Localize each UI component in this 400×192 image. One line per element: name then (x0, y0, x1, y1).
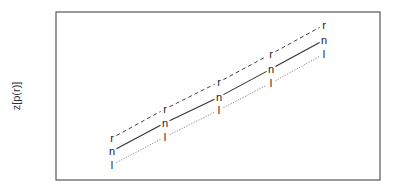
data-point-marker: n (216, 91, 222, 103)
data-point-marker: l (164, 131, 166, 143)
data-point-marker: l (111, 159, 113, 171)
series-line-segment (223, 71, 266, 94)
series-line-segment (275, 42, 319, 66)
data-point-marker: l (323, 48, 325, 60)
series-r: rrrrr (110, 19, 326, 144)
y-axis-label: z[p(r)] (10, 82, 22, 111)
series-layer: rrrrrnnnnnlllll (109, 19, 327, 171)
series-line-segment (223, 56, 266, 79)
series-line-segment (116, 139, 160, 162)
data-point-marker: n (109, 145, 115, 157)
data-point-marker: r (217, 76, 221, 88)
data-point-marker: l (218, 104, 220, 116)
line-chart: rrrrrnnnnnlllll (0, 0, 400, 192)
data-point-marker: r (269, 48, 273, 60)
series-n: nnnnn (109, 34, 327, 157)
series-line-segment (116, 125, 160, 148)
series-line-segment (169, 84, 214, 107)
data-point-marker: r (163, 103, 167, 115)
data-point-marker: n (162, 117, 168, 129)
series-line-segment (275, 56, 319, 80)
data-point-marker: n (321, 34, 327, 46)
series-line-segment (169, 112, 214, 135)
series-l: lllll (111, 48, 325, 171)
series-line-segment (116, 111, 160, 135)
data-point-marker: r (110, 132, 114, 144)
series-line-segment (275, 27, 319, 51)
data-point-marker: r (322, 19, 326, 31)
data-point-marker: l (270, 77, 272, 89)
data-point-marker: n (268, 63, 274, 75)
series-line-segment (170, 99, 215, 121)
series-line-segment (223, 85, 266, 107)
